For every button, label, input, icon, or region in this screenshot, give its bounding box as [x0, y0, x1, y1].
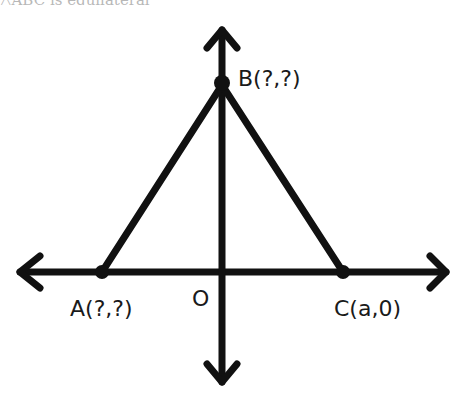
- label-b: B(?,?): [238, 66, 301, 91]
- point-c: [336, 265, 350, 279]
- segment-ab: [102, 85, 222, 272]
- label-a: A(?,?): [70, 296, 133, 321]
- label-origin: O: [192, 286, 209, 311]
- point-b: [214, 75, 230, 91]
- point-a: [95, 265, 109, 279]
- segment-bc: [222, 85, 343, 272]
- diagram: B(?,?) A(?,?) O C(a,0): [0, 0, 465, 393]
- label-c: C(a,0): [334, 296, 401, 321]
